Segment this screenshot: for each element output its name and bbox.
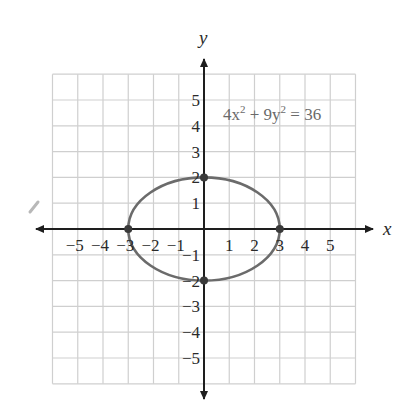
- x-tick-label: −2: [141, 236, 159, 255]
- y-tick-label: 4: [192, 117, 201, 136]
- intercept-point: [200, 277, 208, 285]
- y-tick-label: 2: [192, 168, 201, 187]
- y-tick-label: −4: [182, 323, 201, 342]
- y-tick-label: 3: [192, 143, 201, 162]
- y-tick-label: 1: [192, 194, 201, 213]
- y-tick-label: −3: [182, 297, 200, 316]
- intercept-point: [276, 225, 284, 233]
- x-tick-label: 5: [326, 236, 335, 255]
- x-tick-label: 2: [250, 236, 259, 255]
- pencil-mark: [30, 202, 38, 212]
- y-tick-label: −1: [182, 246, 200, 265]
- y-tick-label: 5: [192, 91, 201, 110]
- coordinate-plane: −5−4−3−2−11234554321−1−2−3−4−5 x y 4x2 +…: [0, 0, 416, 412]
- x-tick-label: 4: [301, 236, 310, 255]
- y-tick-label: −5: [182, 349, 200, 368]
- x-tick-label: −4: [91, 236, 110, 255]
- y-tick-label: −2: [182, 272, 200, 291]
- equation-label: 4x2 + 9y2 = 36: [223, 103, 321, 124]
- intercept-point: [200, 173, 208, 181]
- x-axis-label: x: [382, 218, 392, 239]
- y-axis-label: y: [197, 27, 208, 48]
- x-tick-label: 3: [276, 236, 285, 255]
- x-tick-label: −5: [66, 236, 84, 255]
- x-tick-label: 1: [225, 236, 234, 255]
- ellipse-graph-figure: −5−4−3−2−11234554321−1−2−3−4−5 x y 4x2 +…: [0, 0, 416, 412]
- intercept-point: [124, 225, 132, 233]
- axes: [36, 59, 373, 399]
- x-tick-label: −3: [116, 236, 134, 255]
